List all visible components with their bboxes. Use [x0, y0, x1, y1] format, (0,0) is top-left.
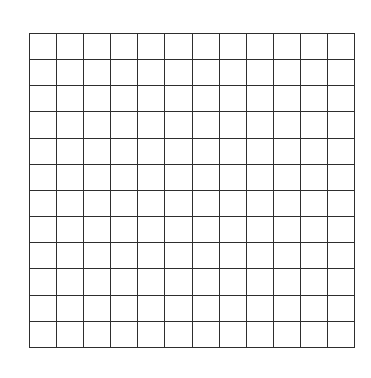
grid-cell	[137, 321, 164, 347]
grid-cell	[219, 164, 246, 190]
grid-cell	[110, 242, 137, 268]
grid-cell	[137, 216, 164, 242]
grid-cell	[192, 164, 219, 190]
grid-cell	[110, 190, 137, 216]
grid-cell	[246, 268, 273, 294]
grid-cell	[219, 321, 246, 347]
grid-cell	[56, 321, 83, 347]
grid-cell	[192, 33, 219, 59]
grid-cell	[300, 164, 327, 190]
grid-cell	[56, 190, 83, 216]
grid-cell	[29, 295, 56, 321]
grid-cell	[137, 164, 164, 190]
grid-cell	[192, 295, 219, 321]
grid-cell	[164, 216, 191, 242]
grid-cell	[110, 268, 137, 294]
grid-cell	[192, 321, 219, 347]
grid-cell	[300, 59, 327, 85]
grid-cell	[110, 164, 137, 190]
grid-cell	[110, 321, 137, 347]
grid-cell	[83, 190, 110, 216]
grid-cell	[83, 164, 110, 190]
grid-cell	[110, 216, 137, 242]
grid-cell	[137, 295, 164, 321]
grid-cell	[273, 321, 300, 347]
grid-cell	[219, 295, 246, 321]
grid-cell	[56, 242, 83, 268]
grid-cell	[300, 321, 327, 347]
grid-cell	[300, 242, 327, 268]
grid-cell	[56, 268, 83, 294]
grid-cell	[192, 59, 219, 85]
grid-cell	[137, 59, 164, 85]
grid-cell	[83, 33, 110, 59]
grid-cell	[327, 111, 354, 137]
grid-cell	[83, 138, 110, 164]
grid-cell	[246, 138, 273, 164]
grid-cell	[273, 242, 300, 268]
grid-cell	[273, 111, 300, 137]
grid-cell	[83, 85, 110, 111]
grid-cell	[327, 216, 354, 242]
grid-cell	[56, 59, 83, 85]
grid-cell	[273, 190, 300, 216]
grid-cell	[56, 33, 83, 59]
grid-cell	[137, 138, 164, 164]
grid-cell	[246, 85, 273, 111]
grid-cell	[110, 59, 137, 85]
grid-cell	[246, 295, 273, 321]
grid-cell	[192, 216, 219, 242]
grid-cell	[300, 190, 327, 216]
grid-cell	[192, 190, 219, 216]
grid-cell	[137, 190, 164, 216]
grid-cell	[327, 59, 354, 85]
grid-cell	[110, 138, 137, 164]
grid-cell	[110, 33, 137, 59]
grid-cell	[164, 295, 191, 321]
grid-cell	[246, 190, 273, 216]
grid-cell	[164, 33, 191, 59]
grid-cell	[327, 33, 354, 59]
grid-cell	[137, 33, 164, 59]
grid-cell	[110, 85, 137, 111]
grid-cell	[219, 111, 246, 137]
grid-cell	[273, 138, 300, 164]
grid-cell	[246, 33, 273, 59]
grid-cell	[273, 59, 300, 85]
grid-cell	[219, 138, 246, 164]
grid-cell	[83, 111, 110, 137]
grid-cell	[137, 111, 164, 137]
grid-cell	[246, 242, 273, 268]
grid-cell	[246, 59, 273, 85]
grid-cell	[56, 295, 83, 321]
grid-cell	[219, 242, 246, 268]
grid-cell	[192, 85, 219, 111]
grid-cell	[327, 190, 354, 216]
grid-cell	[164, 321, 191, 347]
grid-cell	[29, 242, 56, 268]
grid-cell	[273, 33, 300, 59]
grid-cell	[56, 138, 83, 164]
grid-cell	[29, 138, 56, 164]
grid-cell	[219, 59, 246, 85]
grid-cell	[327, 164, 354, 190]
grid-cell	[29, 85, 56, 111]
grid-cell	[219, 85, 246, 111]
grid-cell	[56, 85, 83, 111]
grid-cell	[83, 216, 110, 242]
grid-cell	[327, 321, 354, 347]
grid-cell	[137, 242, 164, 268]
grid-cell	[273, 295, 300, 321]
grid-cell	[164, 85, 191, 111]
grid-cell	[56, 216, 83, 242]
grid-cell	[192, 268, 219, 294]
grid-cell	[29, 33, 56, 59]
grid-cell	[300, 33, 327, 59]
grid-cell	[246, 164, 273, 190]
grid-cell	[137, 85, 164, 111]
grid-cell	[83, 268, 110, 294]
grid-cell	[300, 138, 327, 164]
grid-cell	[327, 85, 354, 111]
grid-cell	[83, 321, 110, 347]
grid-cell	[273, 268, 300, 294]
